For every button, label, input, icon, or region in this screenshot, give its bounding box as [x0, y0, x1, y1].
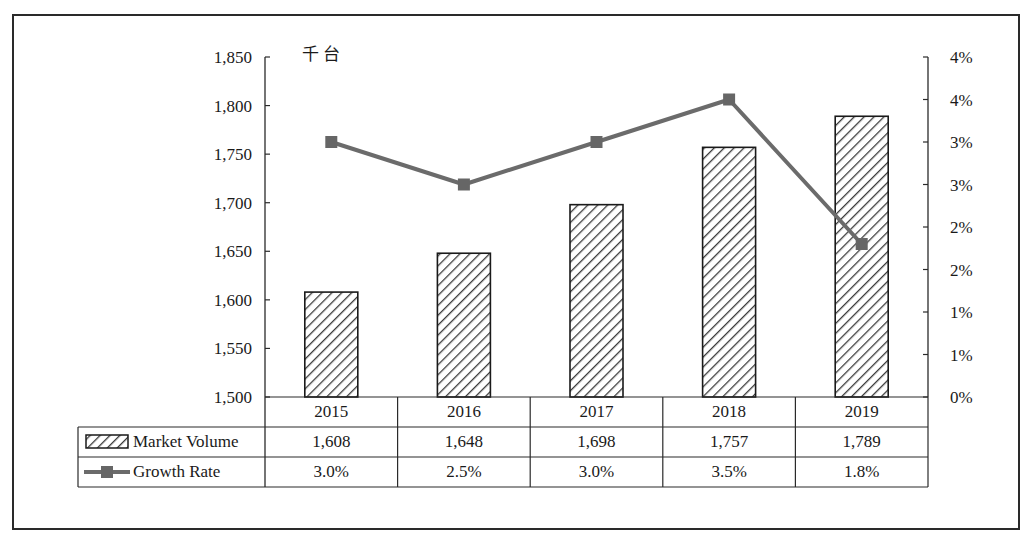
growth-rate-cell: 3.0%: [530, 457, 663, 487]
market-volume-cell: 1,608: [265, 427, 398, 457]
growth-rate-cell: 1.8%: [795, 457, 928, 487]
left-axis-tick-label: 1,550: [214, 339, 252, 358]
left-axis-tick-label: 1,750: [214, 145, 252, 164]
hatched-bar-swatch-icon: [86, 435, 128, 448]
growth-rate-cell: 2.5%: [398, 457, 531, 487]
unit-label: 千台: [302, 40, 344, 65]
market-volume-cell: 1,698: [530, 427, 663, 457]
growth-marker-2018: [723, 94, 735, 106]
growth-rate-cell: 3.5%: [663, 457, 796, 487]
right-axis-tick-label: 3%: [950, 176, 973, 195]
market-volume-cell: 1,757: [663, 427, 796, 457]
square-marker-icon: [101, 466, 113, 478]
bar-2016: [437, 253, 490, 397]
market-volume-cell: 1,648: [398, 427, 531, 457]
bar-2019: [835, 116, 888, 397]
market-volume-cell: 1,789: [795, 427, 928, 457]
legend-label-market-volume: Market Volume: [133, 427, 239, 457]
growth-marker-2017: [591, 136, 603, 148]
left-axis-tick-label: 1,700: [214, 194, 252, 213]
year-header-cell: 2018: [663, 397, 796, 427]
right-axis-tick-label: 0%: [950, 388, 973, 407]
year-header-cell: 2016: [398, 397, 531, 427]
bar-2015: [305, 292, 358, 397]
year-header-cell: 2017: [530, 397, 663, 427]
right-y-axis: 4%4%3%3%2%2%1%1%0%: [923, 48, 973, 407]
market-volume-bars: [305, 116, 888, 397]
left-axis-tick-label: 1,500: [214, 388, 252, 407]
growth-marker-2016: [458, 179, 470, 191]
growth-marker-2015: [325, 136, 337, 148]
left-axis-tick-label: 1,800: [214, 97, 252, 116]
right-axis-tick-label: 1%: [950, 303, 973, 322]
left-axis-tick-label: 1,650: [214, 242, 252, 261]
right-axis-tick-label: 2%: [950, 218, 973, 237]
left-y-axis: 1,8501,8001,7501,7001,6501,6001,5501,500: [214, 48, 270, 487]
growth-marker-2019: [856, 238, 868, 250]
year-header-cell: 2015: [265, 397, 398, 427]
bar-2018: [703, 147, 756, 397]
right-axis-tick-label: 2%: [950, 261, 973, 280]
right-axis-tick-label: 4%: [950, 48, 973, 67]
right-axis-tick-label: 1%: [950, 346, 973, 365]
legend-label-growth-rate: Growth Rate: [133, 457, 220, 487]
bar-2017: [570, 205, 623, 397]
left-axis-tick-label: 1,850: [214, 48, 252, 67]
left-axis-tick-label: 1,600: [214, 291, 252, 310]
right-axis-tick-label: 4%: [950, 91, 973, 110]
year-header-cell: 2019: [795, 397, 928, 427]
growth-rate-cell: 3.0%: [265, 457, 398, 487]
right-axis-tick-label: 3%: [950, 133, 973, 152]
